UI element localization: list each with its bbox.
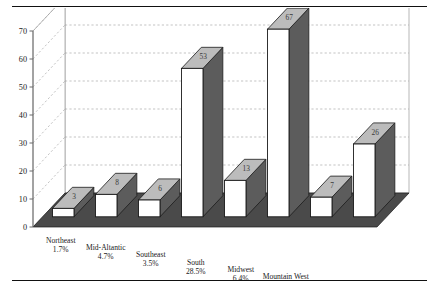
clipped-header-caption — [40, 0, 400, 3]
y-tick-label: 40 — [19, 111, 27, 120]
y-tick-label: 60 — [19, 55, 27, 64]
bar-value-label: 3 — [72, 192, 76, 201]
category-label: Mid-Altantic — [86, 243, 126, 252]
footer-divider-rule — [12, 280, 427, 281]
category-label: Southeast — [136, 250, 166, 259]
y-tick-label: 20 — [19, 167, 27, 176]
category-percent-label: 4.7% — [98, 252, 114, 261]
category-percent-label: 28.5% — [186, 267, 206, 276]
chart-page: 010203040506070 386531367726 Northeast1.… — [0, 0, 439, 294]
category-label: Northeast — [46, 236, 76, 245]
bar-4 — [181, 47, 222, 216]
bar-chart-3d: 010203040506070 386531367726 Northeast1.… — [0, 8, 439, 280]
category-label: South — [187, 258, 205, 267]
chart-category-labels: Northeast1.7%Mid-Altantic4.7%Southeast3.… — [46, 236, 386, 280]
bar-6 — [267, 8, 308, 217]
chart-y-tick-labels: 010203040506070 — [19, 27, 27, 232]
y-tick-label: 10 — [19, 195, 27, 204]
y-tick-label: 0 — [23, 223, 27, 232]
chart-y-axis — [30, 31, 34, 227]
bar-value-label: 13 — [242, 164, 250, 173]
category-percent-label: 1.7% — [53, 245, 69, 254]
y-tick-label: 50 — [19, 83, 27, 92]
category-label: Mountain West — [263, 272, 310, 280]
bar-value-label: 6 — [158, 184, 162, 193]
bar-value-label: 8 — [115, 178, 119, 187]
bar-value-label: 26 — [371, 128, 379, 137]
y-tick-label: 30 — [19, 139, 27, 148]
bar-value-label: 67 — [285, 13, 293, 22]
header-divider-rule — [12, 6, 427, 7]
category-label: Midwest — [227, 265, 254, 274]
bar-value-label: 7 — [330, 181, 334, 190]
bar-value-label: 53 — [199, 52, 207, 61]
category-percent-label: 3.5% — [143, 259, 159, 268]
y-tick-label: 70 — [19, 27, 27, 36]
